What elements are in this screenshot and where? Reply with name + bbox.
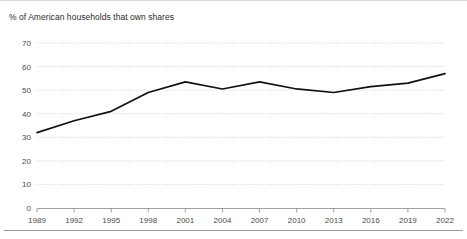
y-axis-tick-label: 20 — [22, 157, 31, 166]
x-axis-tick-label: 1995 — [102, 216, 120, 225]
y-axis-tick-label: 50 — [22, 86, 31, 95]
x-axis-tick-label: 2010 — [288, 216, 306, 225]
y-axis-tick-label: 10 — [22, 180, 31, 189]
chart-figure: % of American households that own shares… — [0, 0, 467, 239]
x-axis-tick-label: 1989 — [28, 216, 46, 225]
plot-area: 010203040506070 198919921995199820012004… — [0, 1, 467, 239]
x-axis-tick-marks — [37, 209, 445, 213]
x-axis-tick-label: 2019 — [399, 216, 417, 225]
x-axis-tick-label: 2013 — [325, 216, 343, 225]
x-axis-tick-label: 2022 — [436, 216, 454, 225]
x-axis-tick-labels: 1989199219951998200120042007201020132016… — [28, 216, 454, 225]
y-axis-tick-label: 30 — [22, 133, 31, 142]
y-axis-tick-label: 70 — [22, 39, 31, 48]
chart-svg: 010203040506070 198919921995199820012004… — [0, 1, 467, 239]
x-axis-tick-label: 2016 — [362, 216, 380, 225]
y-axis-tick-label: 40 — [22, 110, 31, 119]
data-series-line — [37, 74, 445, 133]
x-axis-tick-label: 2001 — [176, 216, 194, 225]
y-axis-tick-label: 0 — [27, 204, 32, 213]
x-axis-tick-label: 2004 — [214, 216, 232, 225]
gridlines — [37, 43, 445, 184]
x-axis-tick-label: 1992 — [65, 216, 83, 225]
y-axis-tick-label: 60 — [22, 63, 31, 72]
y-axis-tick-labels: 010203040506070 — [22, 39, 31, 213]
x-axis-tick-label: 2007 — [251, 216, 269, 225]
bottom-divider — [4, 230, 463, 231]
x-axis-tick-label: 1998 — [139, 216, 157, 225]
